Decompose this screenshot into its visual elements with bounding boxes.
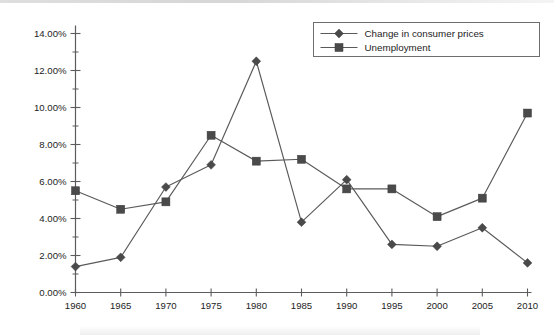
scan-artifact-top — [0, 0, 554, 3]
y-tick-label: 0.00% — [39, 287, 67, 298]
data-point-diamond — [433, 242, 442, 251]
y-tick-label: 6.00% — [39, 176, 67, 187]
data-point-square — [117, 205, 125, 213]
x-tick-label: 1995 — [381, 300, 402, 311]
data-point-square — [298, 155, 306, 163]
data-point-square — [72, 187, 80, 195]
data-point-diamond — [207, 160, 216, 169]
data-point-square — [207, 131, 215, 139]
data-point-diamond — [252, 57, 261, 66]
data-point-square — [433, 213, 441, 221]
x-tick-label: 1980 — [246, 300, 267, 311]
series-2 — [72, 109, 532, 221]
data-point-square — [524, 109, 532, 117]
legend-label: Unemployment — [365, 42, 431, 53]
y-tick-label: 4.00% — [39, 213, 67, 224]
y-tick-label: 8.00% — [39, 139, 67, 150]
series-layer — [71, 57, 532, 271]
x-tick-label: 1985 — [291, 300, 312, 311]
x-tick-label: 1975 — [200, 300, 221, 311]
data-point-diamond — [162, 183, 171, 192]
x-tick-label: 1990 — [336, 300, 357, 311]
legend-label: Change in consumer prices — [365, 28, 484, 39]
x-tick-label: 2000 — [426, 300, 447, 311]
data-point-square — [162, 198, 170, 206]
y-tick-label: 2.00% — [39, 250, 67, 261]
x-axis: 1960196519701975198019851990199520002005… — [65, 289, 538, 311]
y-tick-label: 14.00% — [34, 28, 67, 39]
line-chart: 0.00%2.00%4.00%6.00%8.00%10.00%12.00%14.… — [0, 0, 554, 335]
x-tick-label: 1970 — [155, 300, 176, 311]
data-point-square — [252, 157, 260, 165]
data-point-diamond — [71, 262, 80, 271]
legend-item-2[interactable]: Unemployment — [321, 42, 431, 53]
x-tick-label: 2010 — [517, 300, 538, 311]
series-line — [76, 61, 528, 266]
data-point-diamond — [116, 253, 125, 262]
data-point-square — [478, 194, 486, 202]
data-point-square — [388, 185, 396, 193]
chart-legend: Change in consumer pricesUnemployment — [314, 23, 540, 57]
chart-plot-area: 0.00%2.00%4.00%6.00%8.00%10.00%12.00%14.… — [0, 0, 554, 335]
legend-marker-square — [335, 44, 343, 52]
scan-artifact-bottom — [80, 326, 480, 335]
y-tick-label: 10.00% — [34, 102, 67, 113]
series-1 — [71, 57, 532, 271]
x-tick-label: 1965 — [110, 300, 131, 311]
y-tick-label: 12.00% — [34, 65, 67, 76]
x-tick-label: 1960 — [65, 300, 86, 311]
data-point-diamond — [388, 240, 397, 249]
series-line — [76, 113, 528, 217]
x-tick-label: 2005 — [472, 300, 493, 311]
data-point-square — [343, 185, 351, 193]
y-axis: 0.00%2.00%4.00%6.00%8.00%10.00%12.00%14.… — [34, 26, 81, 299]
